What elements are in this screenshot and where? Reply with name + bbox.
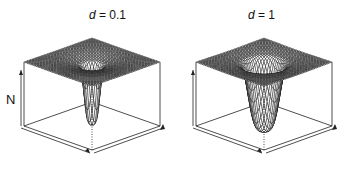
surface-plots: [0, 0, 343, 190]
figure: d = 0.1 d = 1 N: [0, 0, 343, 190]
surface-panel-left: [19, 38, 165, 153]
surface-panel-right: [191, 38, 337, 153]
